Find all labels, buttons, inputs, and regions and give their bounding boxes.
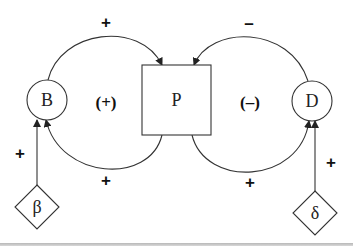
node-p-label: P [171, 90, 181, 110]
node-beta-label: β [32, 197, 41, 217]
causal-loop-diagram: B P D β δ + + – + + + (+) (–) [0, 0, 353, 248]
sign-p-to-b: + [101, 171, 111, 190]
sign-b-to-p: + [101, 13, 111, 32]
node-b: B [27, 80, 67, 120]
node-beta: β [15, 185, 59, 229]
node-delta-label: δ [311, 203, 319, 223]
sign-p-to-d: + [245, 173, 255, 192]
loop-right-label: (–) [240, 93, 260, 112]
sign-d-to-p: – [244, 14, 253, 33]
sign-delta-to-d: + [326, 153, 336, 172]
node-p: P [142, 65, 211, 135]
node-delta: δ [293, 191, 337, 235]
node-d: D [292, 81, 332, 121]
node-d-label: D [306, 91, 319, 111]
sign-beta-to-b: + [15, 144, 25, 163]
bottom-divider [0, 243, 353, 246]
loop-left-label: (+) [95, 93, 116, 112]
node-b-label: B [41, 90, 53, 110]
